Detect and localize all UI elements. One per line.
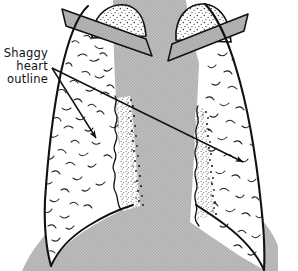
label-line-3: outline	[7, 72, 48, 86]
label-line-2: heart	[16, 59, 48, 73]
chest-radiograph-illustration: Shaggy heart outline	[0, 0, 298, 271]
label-line-1: Shaggy	[4, 46, 48, 60]
figure-root: Shaggy heart outline	[0, 0, 298, 271]
